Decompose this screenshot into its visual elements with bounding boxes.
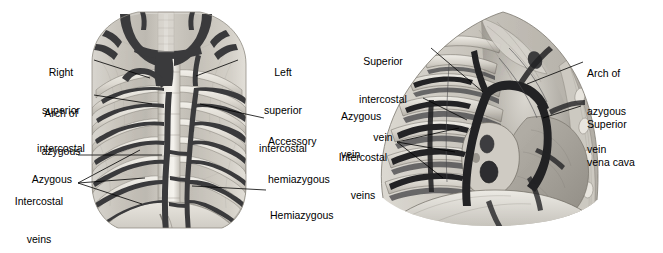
trachea-shadow [158,12,174,52]
bronchus-upper [480,135,494,153]
label-superior-vena-cava: Superior vena cava [587,93,663,194]
label-intercostal-veins-right: Intercostal veins [329,126,397,227]
right-panel-illustration: Superior intercostal vein Azygous vein I… [331,0,663,253]
left-panel-illustration: Right superior intercostal Arch of azygo… [0,0,331,253]
label-intercostal-veins-left: Intercostal veins [4,170,74,253]
bronchus-lower [480,161,498,183]
figure-canvas: Right superior intercostal Arch of azygo… [0,0,663,253]
